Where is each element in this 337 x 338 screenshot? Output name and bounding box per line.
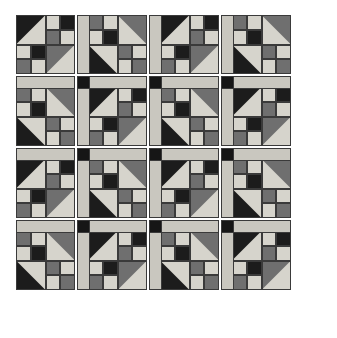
patch-square bbox=[160, 246, 175, 261]
patch-square bbox=[60, 15, 75, 30]
patch-hst-wedge bbox=[47, 46, 75, 74]
patch-square bbox=[16, 231, 31, 246]
patch-square bbox=[175, 246, 190, 261]
patch-hst-wedge bbox=[47, 88, 75, 116]
patch-square bbox=[247, 174, 262, 189]
cornerstone-square bbox=[221, 76, 234, 89]
patch-hst-wedge bbox=[161, 16, 189, 44]
patch-square bbox=[88, 117, 103, 132]
patch-square bbox=[132, 87, 147, 102]
patch-square bbox=[132, 203, 147, 218]
patch-hst-wedge bbox=[263, 118, 291, 146]
vertical-sashing-strip bbox=[77, 231, 90, 290]
patch-square bbox=[132, 189, 147, 204]
patch-square bbox=[31, 102, 46, 117]
patch-square bbox=[262, 231, 277, 246]
patch-square bbox=[204, 117, 219, 132]
patch-square bbox=[16, 203, 31, 218]
patch-square bbox=[88, 159, 103, 174]
quilt-block bbox=[88, 87, 147, 146]
patch-square bbox=[276, 59, 291, 74]
patch-hst-wedge bbox=[161, 160, 189, 188]
patch-square bbox=[46, 275, 61, 290]
patch-square bbox=[204, 275, 219, 290]
patch-square bbox=[46, 159, 61, 174]
quilt-block bbox=[16, 15, 75, 74]
patch-hst bbox=[232, 45, 262, 75]
patch-square bbox=[118, 189, 133, 204]
quilt-block bbox=[16, 159, 75, 218]
patch-square bbox=[247, 117, 262, 132]
patch-square bbox=[276, 246, 291, 261]
quilt-block bbox=[16, 87, 75, 146]
quilt-block bbox=[16, 231, 75, 290]
patch-square bbox=[31, 246, 46, 261]
patch-hst-wedge bbox=[191, 232, 219, 260]
patch-hst bbox=[262, 15, 292, 45]
patch-hst bbox=[160, 15, 190, 45]
patch-square bbox=[118, 102, 133, 117]
patch-square bbox=[16, 45, 31, 60]
patch-hst bbox=[118, 261, 148, 291]
patch-square bbox=[31, 203, 46, 218]
cornerstone-square bbox=[221, 220, 234, 233]
patch-hst bbox=[16, 117, 46, 147]
patch-hst-wedge bbox=[119, 16, 147, 44]
patch-hst-wedge bbox=[119, 118, 147, 146]
patch-hst bbox=[118, 117, 148, 147]
patch-hst-wedge bbox=[233, 88, 261, 116]
patch-square bbox=[232, 15, 247, 30]
cornerstone-square bbox=[77, 220, 90, 233]
patch-hst-wedge bbox=[89, 190, 117, 218]
patch-square bbox=[160, 102, 175, 117]
quilt-block bbox=[88, 15, 147, 74]
patch-square bbox=[118, 246, 133, 261]
vertical-sashing-strip bbox=[77, 87, 90, 146]
patch-square bbox=[132, 45, 147, 60]
patch-square bbox=[118, 87, 133, 102]
patch-square bbox=[204, 261, 219, 276]
patch-square bbox=[46, 117, 61, 132]
patch-hst bbox=[88, 45, 118, 75]
patch-square bbox=[60, 275, 75, 290]
patch-hst bbox=[88, 231, 118, 261]
patch-square bbox=[88, 275, 103, 290]
patch-square bbox=[88, 174, 103, 189]
patch-hst bbox=[46, 231, 76, 261]
cornerstone-square bbox=[77, 148, 90, 161]
horizontal-sashing-strip bbox=[160, 220, 219, 233]
patch-square bbox=[175, 59, 190, 74]
patch-square bbox=[247, 261, 262, 276]
horizontal-sashing-strip bbox=[232, 148, 291, 161]
patch-hst-wedge bbox=[17, 160, 45, 188]
vertical-sashing-strip bbox=[149, 15, 162, 74]
cornerstone-square bbox=[149, 220, 162, 233]
patch-hst-wedge bbox=[233, 190, 261, 218]
vertical-sashing-strip bbox=[149, 159, 162, 218]
patch-square bbox=[103, 131, 118, 146]
patch-square bbox=[16, 87, 31, 102]
patch-hst bbox=[160, 159, 190, 189]
patch-square bbox=[190, 275, 205, 290]
patch-square bbox=[16, 246, 31, 261]
patch-square bbox=[232, 131, 247, 146]
patch-square bbox=[204, 174, 219, 189]
patch-square bbox=[31, 231, 46, 246]
patch-square bbox=[232, 159, 247, 174]
patch-hst bbox=[232, 189, 262, 219]
patch-hst bbox=[16, 159, 46, 189]
patch-square bbox=[175, 45, 190, 60]
patch-hst-wedge bbox=[17, 262, 45, 290]
horizontal-sashing-strip bbox=[232, 76, 291, 89]
vertical-sashing-strip bbox=[221, 87, 234, 146]
patch-square bbox=[247, 15, 262, 30]
vertical-sashing-strip bbox=[149, 87, 162, 146]
patch-square bbox=[276, 203, 291, 218]
patch-hst-wedge bbox=[191, 190, 219, 218]
patch-square bbox=[276, 102, 291, 117]
horizontal-sashing-strip bbox=[88, 76, 147, 89]
patch-hst bbox=[262, 159, 292, 189]
patch-hst-wedge bbox=[17, 118, 45, 146]
patch-square bbox=[16, 189, 31, 204]
patch-square bbox=[118, 59, 133, 74]
